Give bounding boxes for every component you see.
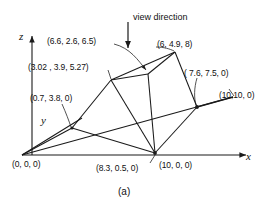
leader-apexupper [114,44,146,70]
vertex-label-base-left: (0.7, 3.8, 0) [30,93,72,103]
vertex-label-base-right-far: ( 7.6, 7.5, 0) [184,68,228,78]
view-direction-label: view direction [133,12,188,22]
z-axis-label: z [19,30,23,42]
figure-container: view direction z y x (6.6, 2.6, 6.5) (3.… [0,0,271,224]
vertex-label-x-axis-point: (10, 0, 0) [159,160,192,170]
y-axis-label: y [41,114,46,126]
vertex-label-peak-right: (6, 4.9, 8) [157,39,192,49]
leader-ridgeleft [108,70,111,79]
wireframe-diagram [0,0,271,224]
y-axis [22,118,82,155]
edge-origin-to-baseleft [22,128,72,155]
vertex-dot-basefront [153,151,157,155]
edge-apexupper-to-peakright [148,52,175,74]
edge-apexupper-to-basefront [148,74,155,153]
vertex-label-origin: (0, 0, 0) [12,159,40,169]
figure-caption: (a) [118,186,130,197]
solid-edges-group [72,52,197,153]
vertex-label-base-front: (8.3, 0.5, 0) [96,163,138,173]
vertex-label-ridge-left: (3.02 , 3.9, 5.27) [28,62,89,72]
vertex-label-corner-far: (10,10, 0) [219,90,254,100]
leader-baserightfar [195,78,197,105]
vertex-markers [70,105,199,155]
leader-basefront [150,155,155,163]
edge-peakright-to-baserightfar [175,52,197,107]
vertex-label-apex-upper: (6.6, 2.6, 6.5) [47,36,96,46]
x-axis-label: x [246,150,251,162]
edge-basefront-to-baserightfar [155,107,197,153]
leader-baseleft [62,104,71,127]
edge-baseleft-to-ridgeleft [72,80,111,128]
vertex-dot-baserightfar [195,105,199,109]
base-polygon-group [22,97,233,155]
